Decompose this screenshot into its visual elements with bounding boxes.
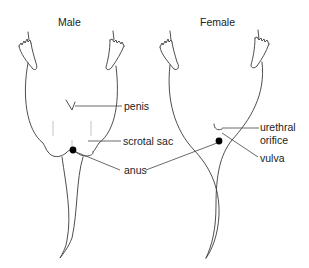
female-body-right [206,62,263,258]
label-urethral-orifice-line2: orifice [260,134,288,146]
female-body-left [169,65,219,258]
label-penis: penis [124,100,149,112]
male-body-left [25,63,48,152]
female-left-foot [160,31,178,70]
male-penis-mark [66,100,75,110]
male-title: Male [58,16,81,28]
male-right-foot [106,31,124,70]
female-right-foot [251,30,269,68]
leader-vulva [222,133,258,157]
male-anus-dot [70,147,77,154]
label-urethral-orifice-line1: urethral [260,121,296,133]
male-tail [60,157,83,258]
label-anus: anus [124,164,147,176]
female-title: Female [200,16,235,28]
label-vulva: vulva [260,152,285,164]
male-body-right [93,66,117,152]
male-figure [19,31,124,258]
leader-anus-male [76,152,120,170]
female-urethral-orifice-mark [214,124,222,130]
label-scrotal-sac: scrotal sac [123,135,173,147]
male-scrotal-guide-lines [53,121,91,148]
